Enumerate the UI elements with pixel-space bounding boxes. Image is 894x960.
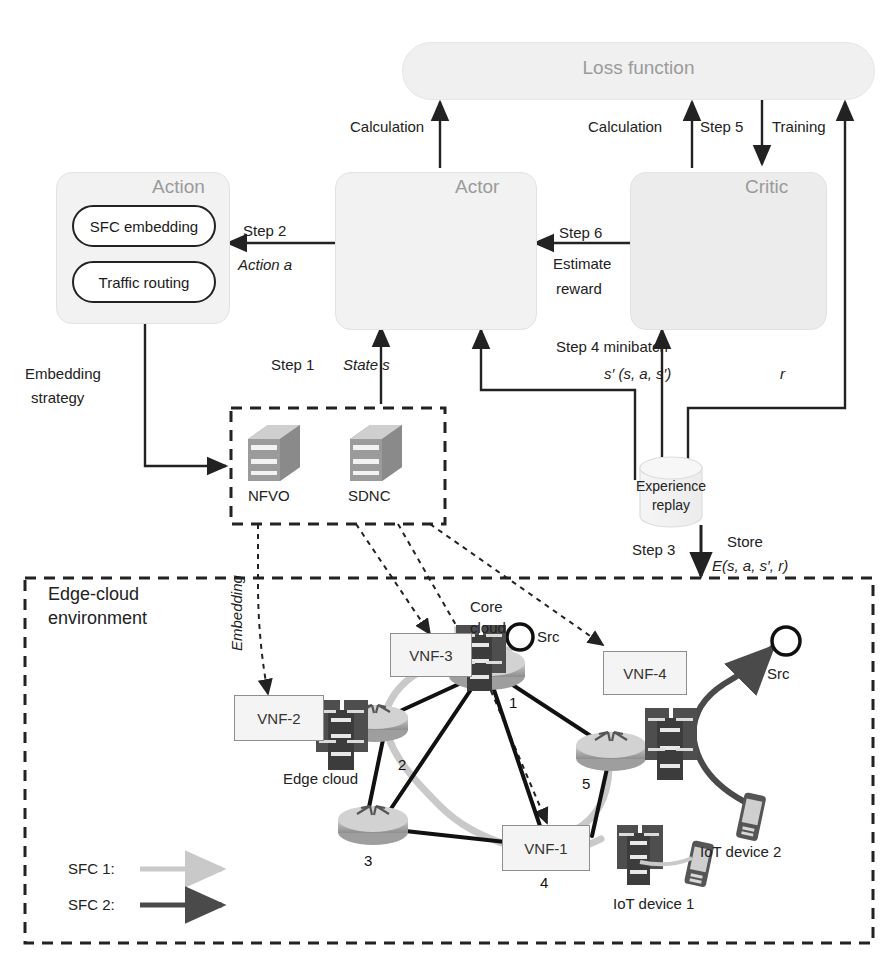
loss-function-box[interactable]: Loss function bbox=[402, 42, 875, 100]
experience-replay-line2: replay bbox=[634, 497, 708, 513]
vnf-2-box[interactable]: VNF-2 bbox=[234, 695, 324, 741]
core-cloud-label-line1: Core bbox=[470, 598, 503, 615]
label-estimate-reward-line2: reward bbox=[556, 280, 602, 297]
loss-function-label: Loss function bbox=[403, 57, 874, 79]
vnf-4-label: VNF-4 bbox=[623, 665, 666, 682]
label-step5: Step 5 bbox=[700, 118, 743, 135]
arrow-action-to-nfvo bbox=[145, 322, 226, 466]
action-item-traffic-routing[interactable]: Traffic routing bbox=[72, 261, 216, 303]
critic-box[interactable] bbox=[630, 172, 827, 330]
label-step2: Step 2 bbox=[243, 222, 286, 239]
label-step6: Step 6 bbox=[559, 224, 602, 241]
diagram-canvas: Loss function Actor Critic Action SFC em… bbox=[0, 0, 894, 960]
vnf-3-box[interactable]: VNF-3 bbox=[390, 633, 472, 677]
src-label-1: Src bbox=[537, 628, 560, 645]
sfc2-path bbox=[694, 648, 772, 802]
orchestrator-label-nfvo: NFVO bbox=[248, 487, 290, 504]
router-3-icon bbox=[338, 806, 408, 845]
connector-layer bbox=[0, 0, 894, 960]
label-step4-minibatch: Step 4 minibatch bbox=[556, 338, 668, 355]
router-number-1: 1 bbox=[509, 694, 517, 711]
legend-sfc2-label: SFC 2: bbox=[68, 896, 115, 913]
server-stack-vnf1-icon bbox=[617, 825, 663, 885]
label-reward-r: r bbox=[780, 365, 785, 382]
vnf-1-box[interactable]: VNF-1 bbox=[502, 825, 590, 871]
label-calculation-critic: Calculation bbox=[588, 118, 662, 135]
label-state-s: State s bbox=[343, 356, 390, 373]
label-embedding: Embedding bbox=[228, 575, 245, 651]
actor-box[interactable] bbox=[335, 172, 537, 330]
label-embedding-strategy-line1: Embedding bbox=[25, 365, 101, 382]
nfvo-server-icon bbox=[248, 425, 300, 481]
src-node-1-icon bbox=[507, 624, 533, 650]
src-label-2: Src bbox=[767, 665, 790, 682]
label-embedding-strategy-line2: strategy bbox=[31, 389, 84, 406]
label-step3: Step 3 bbox=[632, 541, 675, 558]
label-action-a: Action a bbox=[238, 256, 292, 273]
iot-device-1-label: IoT device 1 bbox=[613, 895, 694, 912]
actor-label: Actor bbox=[455, 176, 499, 198]
action-item-sfc-embedding-label: SFC embedding bbox=[90, 218, 198, 235]
router-number-5: 5 bbox=[582, 775, 590, 792]
label-minibatch-tuple: s′ (s, a, s′) bbox=[604, 365, 671, 382]
orchestrator-label-sdnc: SDNC bbox=[348, 487, 391, 504]
router-number-4: 4 bbox=[540, 874, 548, 891]
label-training: Training bbox=[772, 118, 826, 135]
action-item-sfc-embedding[interactable]: SFC embedding bbox=[72, 205, 216, 247]
legend-sfc1-label: SFC 1: bbox=[68, 860, 115, 877]
label-estimate-reward-line1: Estimate bbox=[553, 255, 611, 272]
vnf-2-label: VNF-2 bbox=[257, 710, 300, 727]
environment-title-line1: Edge-cloud bbox=[48, 584, 139, 605]
vnf-1-label: VNF-1 bbox=[524, 840, 567, 857]
label-store: Store bbox=[727, 533, 763, 550]
edge-cloud-label: Edge cloud bbox=[283, 770, 358, 787]
vnf-4-box[interactable]: VNF-4 bbox=[603, 651, 687, 695]
dashed-nfvo-to-vnf2 bbox=[258, 524, 268, 694]
src-node-2-icon bbox=[772, 627, 800, 655]
action-item-traffic-routing-label: Traffic routing bbox=[99, 274, 190, 291]
iot-device-2-label: IoT device 2 bbox=[700, 843, 781, 860]
environment-title-line2: environment bbox=[48, 608, 147, 629]
router-number-2: 2 bbox=[398, 756, 406, 773]
core-cloud-label-line2: cloud bbox=[470, 619, 506, 636]
label-calculation-actor: Calculation bbox=[350, 118, 424, 135]
experience-replay-line1: Experience bbox=[634, 478, 708, 494]
router-5-icon bbox=[576, 732, 646, 771]
router-number-3: 3 bbox=[364, 852, 372, 869]
action-label: Action bbox=[152, 176, 205, 198]
server-stack-right-icon bbox=[645, 708, 697, 780]
vnf-3-label: VNF-3 bbox=[409, 647, 452, 664]
label-store-tuple: E(s, a, s′, r) bbox=[712, 557, 788, 574]
sdnc-server-icon bbox=[350, 425, 402, 481]
label-step1: Step 1 bbox=[271, 356, 314, 373]
critic-label: Critic bbox=[745, 176, 788, 198]
